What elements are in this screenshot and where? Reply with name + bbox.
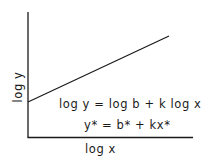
x-axis-label: log x	[85, 143, 116, 155]
y-axis-label: log y	[12, 69, 24, 105]
log-form-equation: log y = log b + k log x	[59, 98, 201, 110]
linear-form-equation: y* = b* + kx*	[84, 119, 171, 131]
regression-line	[28, 36, 169, 102]
